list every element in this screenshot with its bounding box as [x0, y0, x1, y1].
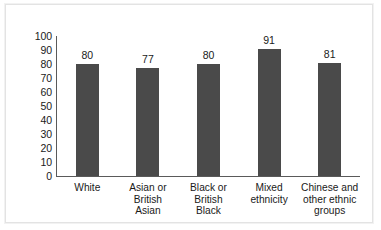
x-axis-category-label-line: ethnicity [239, 194, 300, 206]
chart-card: 100 90 80 70 60 50 40 30 20 10 0 80 Whit… [5, 4, 373, 223]
x-axis-category-label: Asian orBritishAsian [118, 182, 179, 217]
x-axis-category-label-line: groups [299, 205, 360, 217]
x-axis-category-label-line: Mixed [239, 182, 300, 194]
bar-value-label: 80 [179, 50, 239, 61]
bar[interactable] [76, 64, 99, 176]
bar-value-label: 77 [118, 54, 178, 65]
x-axis-category-label-line: other ethnic [299, 194, 360, 206]
x-axis-category-label-line: Asian [118, 205, 179, 217]
x-axis-category-label: Black orBritishBlack [178, 182, 239, 217]
bar[interactable] [318, 63, 341, 176]
bars-layer: 80 White 77 Asian orBritishAsian 80 Blac… [6, 5, 374, 224]
bar[interactable] [258, 49, 281, 176]
x-axis-category-label-line: British [178, 194, 239, 206]
x-axis-category-label-line: Asian or [118, 182, 179, 194]
bar-value-label: 91 [239, 35, 299, 46]
x-axis-category-label: Chinese andother ethnicgroups [299, 182, 360, 217]
x-axis-category-label-line: British [118, 194, 179, 206]
x-axis-category-label: White [57, 182, 118, 194]
x-axis-category-label-line: White [57, 182, 118, 194]
x-axis-category-label: Mixedethnicity [239, 182, 300, 205]
chart-figure: 100 90 80 70 60 50 40 30 20 10 0 80 Whit… [0, 0, 381, 230]
bar[interactable] [136, 68, 159, 176]
bar-value-label: 80 [57, 50, 117, 61]
x-axis-category-label-line: Black or [178, 182, 239, 194]
x-axis-category-label-line: Black [178, 205, 239, 217]
plot-area: 100 90 80 70 60 50 40 30 20 10 0 80 Whit… [6, 5, 374, 224]
bar-value-label: 81 [300, 49, 360, 60]
x-axis-category-label-line: Chinese and [299, 182, 360, 194]
bar[interactable] [197, 64, 220, 176]
